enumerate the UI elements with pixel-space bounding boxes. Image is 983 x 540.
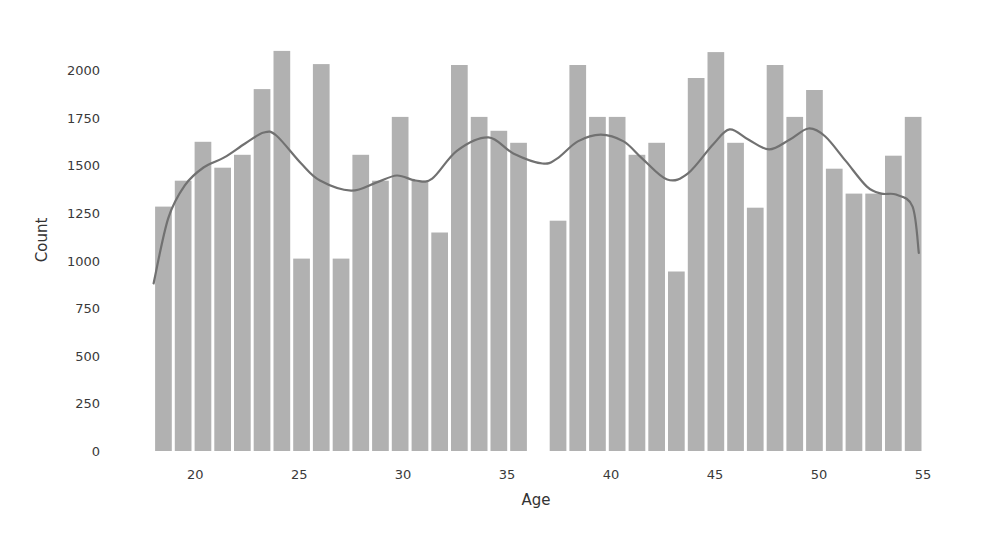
- histogram-bar: [491, 131, 508, 451]
- x-tick-label: 30: [395, 467, 412, 482]
- histogram-bar: [471, 117, 488, 451]
- y-tick-label: 1000: [67, 254, 100, 269]
- histogram-bar: [451, 65, 468, 451]
- histogram-bar: [885, 156, 902, 451]
- histogram-bar: [372, 181, 389, 451]
- histogram-bar: [727, 143, 744, 451]
- x-axis-label: Age: [521, 491, 550, 509]
- histogram-bar: [293, 259, 310, 451]
- histogram-bar: [195, 142, 212, 451]
- y-tick-label: 750: [75, 301, 100, 316]
- histogram-bar: [175, 181, 192, 451]
- histogram-bar: [155, 207, 172, 451]
- histogram-bar: [826, 169, 843, 451]
- histogram-bar: [214, 168, 231, 451]
- histogram-bar: [510, 143, 527, 451]
- x-tick-label: 45: [707, 467, 724, 482]
- y-axis-ticks: 025050075010001250150017502000: [67, 63, 100, 459]
- histogram-bar: [905, 117, 922, 451]
- histogram-bar: [234, 155, 251, 451]
- y-tick-label: 0: [92, 444, 100, 459]
- histogram-bar: [431, 233, 448, 452]
- histogram-bar: [313, 64, 330, 451]
- histogram-bar: [274, 51, 291, 451]
- histogram-bar: [747, 208, 764, 451]
- y-tick-label: 500: [75, 349, 100, 364]
- y-tick-label: 250: [75, 396, 100, 411]
- histogram-bar: [569, 65, 586, 451]
- histogram-bar: [629, 155, 646, 451]
- histogram-bar: [648, 143, 665, 451]
- histogram-bar: [333, 259, 350, 451]
- histogram-bar: [846, 194, 863, 451]
- y-axis-label: Count: [33, 218, 51, 263]
- histogram-bar: [609, 117, 626, 451]
- histogram-bar: [786, 117, 803, 451]
- histogram-chart: 025050075010001250150017502000 202530354…: [0, 0, 983, 540]
- histogram-bar: [688, 78, 705, 451]
- histogram-bar: [550, 221, 567, 451]
- y-tick-label: 1250: [67, 206, 100, 221]
- x-tick-label: 55: [915, 467, 932, 482]
- histogram-bars: [155, 51, 921, 451]
- histogram-bar: [392, 117, 409, 451]
- x-tick-label: 40: [603, 467, 620, 482]
- histogram-bar: [254, 89, 271, 451]
- histogram-bar: [767, 65, 784, 451]
- histogram-bar: [708, 52, 725, 451]
- histogram-bar: [865, 194, 882, 451]
- histogram-bar: [668, 272, 685, 452]
- y-tick-label: 2000: [67, 63, 100, 78]
- y-tick-label: 1500: [67, 158, 100, 173]
- histogram-bar: [352, 155, 369, 451]
- x-axis-ticks: 2025303540455055: [187, 467, 931, 482]
- y-tick-label: 1750: [67, 111, 100, 126]
- x-tick-label: 50: [811, 467, 828, 482]
- histogram-bar: [412, 181, 429, 451]
- histogram-bar: [589, 117, 606, 451]
- x-tick-label: 35: [499, 467, 516, 482]
- histogram-bar: [806, 90, 823, 451]
- x-tick-label: 25: [291, 467, 308, 482]
- x-tick-label: 20: [187, 467, 204, 482]
